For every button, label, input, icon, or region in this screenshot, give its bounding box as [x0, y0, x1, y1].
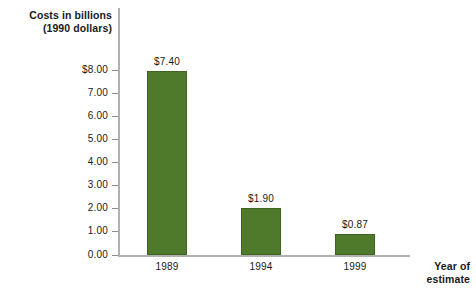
- y-tick-label: 7.00: [42, 87, 108, 98]
- y-tick-mark: [112, 93, 118, 94]
- bar-value-1994: $1.90: [248, 193, 274, 204]
- y-axis-title: Costs in billions (1990 dollars): [8, 9, 112, 35]
- y-tick-label: 3.00: [42, 179, 108, 190]
- bar-1989: [147, 71, 187, 255]
- y-tick-label: $8.00: [42, 64, 108, 75]
- y-tick-mark: [112, 116, 118, 117]
- y-tick-mark: [112, 255, 118, 256]
- y-tick-label: 0.00: [42, 249, 108, 260]
- y-axis-title-line1: Costs in billions: [8, 9, 112, 22]
- y-tick-mark: [112, 162, 118, 163]
- y-tick-mark: [112, 185, 118, 186]
- y-tick-label: 6.00: [42, 110, 108, 121]
- x-axis-title-line2: estimate: [376, 273, 470, 286]
- x-axis-title-line1: Year of: [376, 260, 470, 273]
- bar-1999: [335, 234, 375, 255]
- plot-area: $7.40 $1.90 $0.87: [120, 8, 410, 255]
- x-axis-title: Year of estimate: [376, 260, 470, 286]
- y-tick-mark: [112, 231, 118, 232]
- x-axis-label-1994: 1994: [214, 261, 308, 272]
- x-axis-label-1989: 1989: [120, 261, 214, 272]
- bar-value-1999: $0.87: [342, 219, 368, 230]
- y-tick-mark: [112, 139, 118, 140]
- bar-1994: [241, 208, 281, 255]
- y-tick-mark: [112, 208, 118, 209]
- x-axis-line: [118, 255, 410, 257]
- y-tick-mark: [112, 70, 118, 71]
- bar-group-1999: $0.87: [308, 8, 402, 255]
- bar-chart: Costs in billions (1990 dollars) $8.00 7…: [0, 0, 476, 297]
- y-tick-label: 1.00: [42, 225, 108, 236]
- y-tick-label: 2.00: [42, 202, 108, 213]
- y-axis-title-line2: (1990 dollars): [8, 22, 112, 35]
- bar-group-1989: $7.40: [120, 8, 214, 255]
- y-tick-label: 5.00: [42, 133, 108, 144]
- bar-group-1994: $1.90: [214, 8, 308, 255]
- bar-value-1989: $7.40: [154, 56, 180, 67]
- y-tick-label: 4.00: [42, 156, 108, 167]
